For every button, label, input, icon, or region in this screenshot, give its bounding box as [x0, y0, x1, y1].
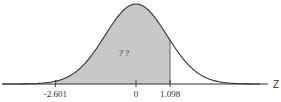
shaded-area: [55, 4, 170, 84]
tick-label: -2.601: [44, 89, 67, 99]
normal-distribution-chart: -2.60101.098 ? ? Z: [0, 0, 281, 102]
tick-label: 0: [134, 89, 139, 99]
axis-label-z: Z: [273, 79, 279, 90]
tick-label: 1.098: [160, 89, 181, 99]
area-label: ? ?: [119, 48, 129, 58]
